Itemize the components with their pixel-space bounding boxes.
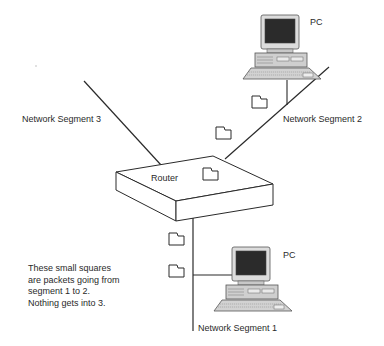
- pc-top-label: PC: [310, 17, 323, 28]
- network-segment-3-label: Network Segment 3: [22, 114, 101, 125]
- packet-icon: [252, 96, 267, 108]
- network-segment-2-line: [225, 67, 329, 159]
- packet-icon: [216, 127, 231, 139]
- note-line: Nothing gets into 3.: [28, 298, 120, 310]
- note-line: segment 1 to 2.: [28, 286, 120, 298]
- router-label: Router: [151, 173, 178, 184]
- packet-icon: [169, 233, 184, 245]
- router-box: [116, 156, 273, 221]
- note-line: are packets going from: [28, 275, 120, 287]
- packet-icon: [169, 265, 184, 277]
- packet-explanation-note: These small squares are packets going fr…: [28, 263, 120, 309]
- network-diagram: Router PC PC Network Segment 3 Network S…: [0, 0, 384, 346]
- network-segment-2-label: Network Segment 2: [283, 114, 362, 125]
- scan-speck: [35, 65, 37, 67]
- pc-bottom-label: PC: [283, 250, 296, 261]
- network-segment-1-label: Network Segment 1: [198, 323, 277, 334]
- pc-bottom-icon: [214, 247, 292, 311]
- note-line: These small squares: [28, 263, 120, 275]
